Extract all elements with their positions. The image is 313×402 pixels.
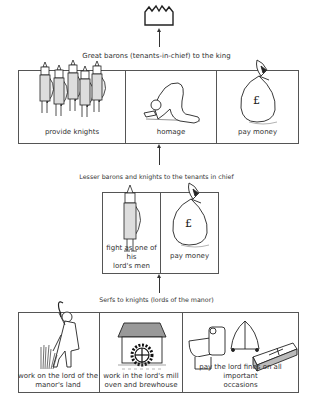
duty-work-land: work on the lord of the manor's land: [19, 313, 99, 392]
serf-with-sickle-icon: [37, 299, 87, 371]
level-1-duties: provide knights homage £ pay money: [18, 70, 299, 144]
svg-text:£: £: [253, 94, 260, 107]
duty-homage: homage: [125, 71, 216, 143]
duty-provide-knights: provide knights: [19, 71, 125, 143]
money-bag-icon: £: [171, 181, 211, 249]
arrow-up-to-tenants: [159, 147, 160, 165]
duty-label: pay money: [217, 128, 298, 137]
duty-label: fight as one of his lord's men: [103, 244, 160, 271]
duty-label: pay money: [161, 252, 218, 261]
arrow-up-to-knights: [159, 277, 160, 293]
svg-text:£: £: [185, 217, 192, 230]
duty-label: pay the lord fines on all important occa…: [183, 363, 298, 390]
duty-pay-money: £ pay money: [160, 193, 218, 273]
duty-label: work in the lord's mill oven and brewhou…: [100, 372, 182, 390]
level-2-title: Lesser barons and knights to the tenants…: [0, 173, 313, 180]
duty-fight: fight as one of his lord's men: [103, 193, 160, 273]
crown-icon: [143, 4, 175, 26]
money-bag-icon: £: [239, 58, 279, 126]
duty-label: provide knights: [19, 128, 125, 137]
level-3-duties: work on the lord of the manor's land wor…: [18, 312, 299, 393]
kneeling-homage-icon: [140, 81, 204, 125]
knights-group-icon: [35, 57, 111, 121]
duty-label: work on the lord of the manor's land: [15, 372, 101, 390]
duty-label: homage: [126, 128, 216, 137]
level-2-duties: fight as one of his lord's men £ pay mon…: [102, 192, 219, 274]
watermill-icon: [116, 321, 168, 371]
duty-pay-fines: pay the lord fines on all important occa…: [182, 313, 298, 392]
duty-work-mill: work in the lord's mill oven and brewhou…: [99, 313, 182, 392]
arrow-up-to-king: [159, 31, 160, 47]
duty-pay-money: £ pay money: [216, 71, 298, 143]
